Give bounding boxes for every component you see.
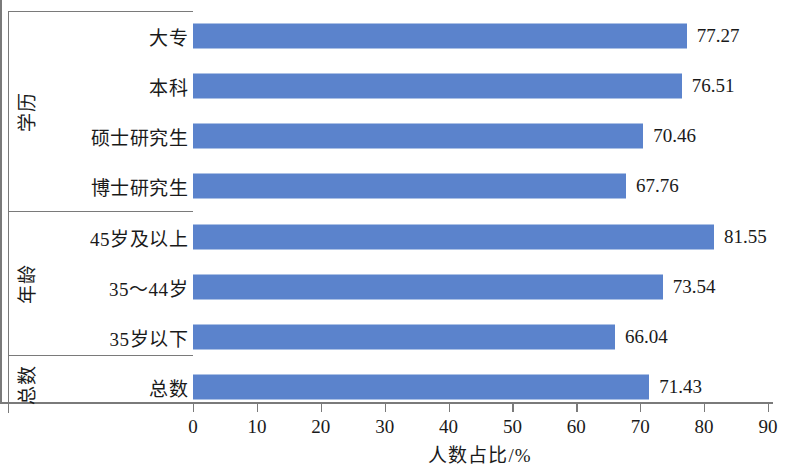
category-label: 博士研究生 [91, 173, 189, 200]
x-axis-tick-label: 30 [375, 416, 394, 438]
x-axis-tick-label: 10 [247, 416, 266, 438]
x-axis-tick [449, 404, 450, 412]
bar-value-label: 73.54 [673, 276, 716, 298]
x-axis-tick [385, 404, 386, 412]
bar-row: 硕士研究生70.46 [0, 111, 789, 161]
bar [193, 224, 714, 249]
bar-value-label: 77.27 [697, 25, 740, 47]
x-axis-tick [768, 404, 769, 412]
x-axis-tick-label: 70 [631, 416, 650, 438]
bar-row: 45岁及以上81.55 [0, 212, 789, 262]
category-label: 大专 [149, 23, 188, 50]
bar-row: 总数71.43 [0, 362, 789, 412]
bar [193, 74, 682, 99]
bar-value-label: 67.76 [636, 175, 679, 197]
bar [193, 174, 626, 199]
bar-value-label: 70.46 [653, 125, 696, 147]
x-axis-tick [512, 404, 513, 412]
bar-row: 本科76.51 [0, 61, 789, 111]
bar-rows: 大专77.27本科76.51硕士研究生70.46博士研究生67.7645岁及以上… [0, 11, 789, 412]
bar [193, 24, 687, 49]
x-axis-tick-label: 40 [439, 416, 458, 438]
bar-row: 35岁以下66.04 [0, 312, 789, 362]
bar-value-label: 66.04 [625, 326, 668, 348]
category-label: 硕士研究生 [91, 123, 189, 150]
bar-row: 35～44岁73.54 [0, 262, 789, 312]
x-axis-tick-label: 80 [695, 416, 714, 438]
x-axis-tick [704, 404, 705, 412]
x-axis-tick-label: 20 [311, 416, 330, 438]
x-axis-tick [321, 404, 322, 412]
bar-row: 大专77.27 [0, 11, 789, 61]
bar-chart: 学历 年龄 总数 大专77.27本科76.51硕士研究生70.46博士研究生67… [0, 0, 789, 466]
bar [193, 274, 663, 299]
category-label: 总数 [149, 373, 188, 400]
bar-value-label: 71.43 [659, 376, 702, 398]
bar [193, 324, 615, 349]
x-axis-title: 人数占比/% [428, 440, 531, 466]
x-axis-tick-label: 50 [503, 416, 522, 438]
category-label: 35～44岁 [109, 273, 188, 300]
bar-value-label: 76.51 [692, 75, 735, 97]
x-axis-tick-label: 0 [188, 416, 198, 438]
category-label: 45岁及以上 [90, 223, 188, 250]
x-axis-tick [576, 404, 577, 412]
x-axis-tick [193, 404, 194, 412]
category-label: 35岁以下 [110, 323, 189, 350]
category-label: 本科 [149, 73, 188, 100]
bar-row: 博士研究生67.76 [0, 161, 789, 211]
bar-value-label: 81.55 [724, 226, 767, 248]
bar [193, 374, 649, 399]
x-axis-tick-label: 90 [759, 416, 778, 438]
x-axis-tick [257, 404, 258, 412]
x-axis-tick-label: 60 [567, 416, 586, 438]
bar [193, 124, 643, 149]
x-axis-tick [640, 404, 641, 412]
